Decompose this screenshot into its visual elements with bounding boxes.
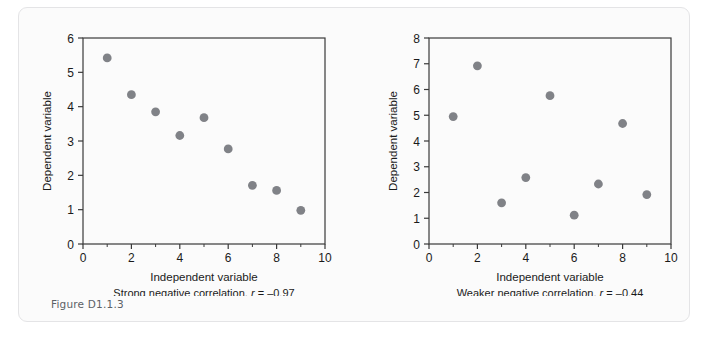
chart-panel-right: 0123456780246810Independent variableWeak… xyxy=(359,8,691,323)
y-axis-tick-label: 5 xyxy=(413,109,420,123)
scatter-chart-2: 0123456780246810Independent variableWeak… xyxy=(383,14,683,296)
y-axis-tick-label: 0 xyxy=(67,238,74,252)
y-axis-tick-label: 0 xyxy=(413,238,420,252)
x-axis-tick-label: 6 xyxy=(225,251,232,265)
data-point xyxy=(497,198,506,207)
y-axis-tick-label: 2 xyxy=(67,169,74,183)
data-point xyxy=(473,61,482,70)
x-axis-tick-label: 8 xyxy=(619,251,626,265)
page-root: 01234560246810Independent variableStrong… xyxy=(0,0,708,337)
x-axis-tick-label: 4 xyxy=(522,251,529,265)
y-axis-tick-label: 4 xyxy=(413,135,420,149)
x-axis-tick-label: 2 xyxy=(474,251,481,265)
y-axis-tick-label: 6 xyxy=(413,83,420,97)
y-axis-tick-label: 2 xyxy=(413,186,420,200)
data-point xyxy=(296,206,305,215)
data-point xyxy=(127,90,136,99)
scatter-chart-1: 01234560246810Independent variableStrong… xyxy=(37,14,337,296)
caption-stat-value: = –0.97 xyxy=(255,287,295,296)
data-point xyxy=(272,186,281,195)
data-point xyxy=(546,91,555,100)
chart-canvas: 0123456780246810Independent variableWeak… xyxy=(383,14,683,296)
data-point xyxy=(618,119,627,128)
data-point xyxy=(248,181,257,190)
y-axis-tick-label: 4 xyxy=(67,100,74,114)
y-axis-tick-label: 7 xyxy=(413,57,420,71)
y-axis-tick-label: 1 xyxy=(67,203,74,217)
y-axis-tick-label: 3 xyxy=(413,160,420,174)
x-axis-label: Independent variable xyxy=(150,271,257,283)
chart-caption: Weaker negative correlation, r = –0.44 xyxy=(457,287,644,296)
data-point xyxy=(151,107,160,116)
figure-frame: 01234560246810Independent variableStrong… xyxy=(18,7,690,322)
data-point xyxy=(103,54,112,63)
x-axis-label: Independent variable xyxy=(496,271,603,283)
chart-caption: Strong negative correlation, r = –0.97 xyxy=(113,287,294,296)
plot-area-frame xyxy=(429,38,671,244)
x-axis-tick-label: 2 xyxy=(128,251,135,265)
x-axis-tick-label: 8 xyxy=(273,251,280,265)
x-axis-tick-label: 10 xyxy=(664,251,678,265)
data-point xyxy=(521,173,530,182)
x-axis-tick-label: 0 xyxy=(80,251,87,265)
data-point xyxy=(570,211,579,220)
y-axis-tick-label: 1 xyxy=(413,212,420,226)
x-axis-tick-label: 0 xyxy=(426,251,433,265)
y-axis-tick-label: 8 xyxy=(413,32,420,46)
x-axis-tick-label: 10 xyxy=(318,251,332,265)
x-axis-tick-label: 6 xyxy=(571,251,578,265)
chart-panel-left: 01234560246810Independent variableStrong… xyxy=(19,8,359,323)
caption-text: Strong negative correlation, xyxy=(113,287,251,296)
data-point xyxy=(642,190,651,199)
y-axis-label: Dependent variable xyxy=(41,91,53,191)
chart-canvas: 01234560246810Independent variableStrong… xyxy=(37,14,337,296)
data-point xyxy=(175,131,184,140)
y-axis-tick-label: 3 xyxy=(67,135,74,149)
figure-label-1: Figure D1.1.3 xyxy=(51,298,124,310)
y-axis-label: Dependent variable xyxy=(387,91,399,191)
data-point xyxy=(594,180,603,189)
plot-area-frame xyxy=(83,38,325,244)
data-point xyxy=(449,112,458,121)
caption-stat-value: = –0.44 xyxy=(603,287,643,296)
data-point xyxy=(200,113,209,122)
x-axis-tick-label: 4 xyxy=(176,251,183,265)
caption-text: Weaker negative correlation, xyxy=(457,287,600,296)
y-axis-tick-label: 6 xyxy=(67,32,74,46)
y-axis-tick-label: 5 xyxy=(67,66,74,80)
data-point xyxy=(224,144,233,153)
